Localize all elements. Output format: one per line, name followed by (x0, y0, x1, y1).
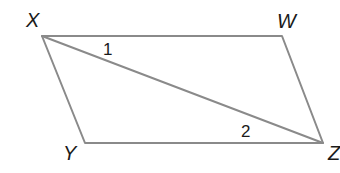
vertex-label-y: Y (63, 142, 78, 164)
angle-label-1: 1 (103, 40, 112, 59)
parallelogram-diagram: X W Y Z 1 2 (0, 0, 340, 173)
diagonal-xz (42, 36, 323, 143)
vertex-label-z: Z (327, 142, 340, 164)
angle-label-2: 2 (241, 122, 250, 141)
vertex-label-w: W (277, 10, 298, 32)
vertex-label-x: X (25, 9, 40, 31)
